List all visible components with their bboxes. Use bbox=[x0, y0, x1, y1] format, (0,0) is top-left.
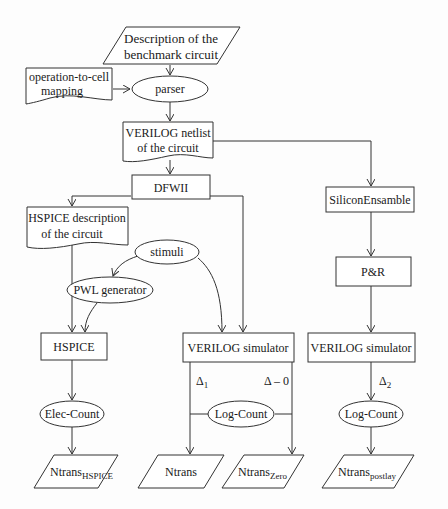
edge-label-delta2: Δ2 bbox=[379, 374, 391, 390]
node-label: operation-to-cell bbox=[29, 70, 110, 84]
node-log-count-functional: Log-Count bbox=[208, 401, 274, 427]
svg-text:Δ – 0: Δ – 0 bbox=[264, 374, 289, 388]
edge-dfwii-hspice-desc bbox=[72, 196, 131, 206]
node-verilog-simulator-postlayout: VERILOG simulator bbox=[308, 333, 415, 362]
node-hspice-description: HSPICE description of the circuit bbox=[27, 207, 128, 248]
node-label: mapping bbox=[41, 84, 83, 98]
edge-label-delta1: Δ1 bbox=[196, 374, 208, 390]
node-label: VERILOG simulator bbox=[311, 341, 412, 355]
edge-dfwii-verilog-sim bbox=[210, 196, 243, 332]
node-label: SiliconEnsamble bbox=[329, 193, 410, 207]
svg-text:Δ2: Δ2 bbox=[379, 374, 391, 390]
node-log-count-postlayout: Log-Count bbox=[339, 401, 403, 427]
node-label: VERILOG netlist bbox=[126, 126, 212, 140]
node-label: stimuli bbox=[150, 245, 184, 259]
node-operation-to-cell-mapping: operation-to-cell mapping bbox=[26, 68, 112, 104]
svg-text:Δ1: Δ1 bbox=[196, 374, 208, 390]
node-elec-count: Elec-Count bbox=[40, 401, 104, 427]
node-stimuli: stimuli bbox=[135, 240, 199, 264]
node-benchmark-description: Description of the benchmark circuit bbox=[103, 27, 240, 64]
node-label: Elec-Count bbox=[45, 407, 100, 421]
node-silicon-ensamble: SiliconEnsamble bbox=[326, 187, 414, 212]
node-dfwii: DFWII bbox=[132, 175, 210, 199]
flow-diagram: Description of the benchmark circuit ope… bbox=[0, 0, 448, 509]
edge-netlist-silicon bbox=[213, 141, 371, 186]
node-label: VERILOG simulator bbox=[188, 341, 289, 355]
node-hspice: HSPICE bbox=[41, 333, 107, 360]
output-ntrans-zero: NtransZero bbox=[222, 455, 304, 488]
node-label: P&R bbox=[361, 265, 385, 279]
node-label: HSPICE bbox=[53, 340, 94, 354]
node-pwl-generator: PWL generator bbox=[67, 277, 153, 303]
node-label: Log-Count bbox=[345, 407, 398, 421]
edge-stimuli-pwl bbox=[113, 256, 138, 276]
output-ntrans: Ntrans bbox=[138, 455, 224, 488]
node-label: PWL generator bbox=[73, 283, 146, 297]
node-label: DFWII bbox=[154, 181, 189, 195]
node-label: Log-Count bbox=[215, 407, 268, 421]
node-verilog-simulator-functional: VERILOG simulator bbox=[183, 333, 294, 362]
node-label: HSPICE description bbox=[28, 211, 126, 225]
edge-label-delta0: Δ – 0 bbox=[264, 374, 289, 388]
edges bbox=[72, 65, 371, 454]
svg-text:Ntrans: Ntrans bbox=[165, 465, 197, 479]
node-label: of the circuit bbox=[41, 227, 103, 241]
edge-pwl-hspice bbox=[85, 303, 97, 332]
node-verilog-netlist: VERILOG netlist of the circuit bbox=[123, 122, 213, 162]
output-ntrans-postlay: Ntranspostlay bbox=[322, 455, 414, 488]
node-label: benchmark circuit bbox=[124, 47, 219, 62]
output-ntrans-hspice: NtransHSPICE bbox=[34, 455, 118, 488]
node-parser: parser bbox=[132, 76, 208, 102]
edge-stimuli-verilog-sim bbox=[198, 258, 222, 332]
node-place-and-route: P&R bbox=[336, 257, 411, 286]
node-label: of the circuit bbox=[137, 141, 199, 155]
node-label: parser bbox=[155, 82, 184, 96]
node-label: Description of the bbox=[124, 31, 218, 46]
